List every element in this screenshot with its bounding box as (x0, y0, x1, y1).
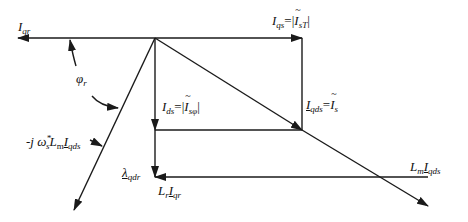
i-qds-vector (155, 38, 302, 130)
neg-j-omega-vector (74, 38, 155, 210)
phi-r-angle-arc-top (70, 40, 76, 66)
neg-j-omega-pointer (90, 140, 102, 146)
i-qs-label: Iqs=|IsT| (272, 14, 310, 30)
phi-r-angle-arc (92, 96, 118, 108)
i-qr-label: Iqr (18, 20, 30, 36)
neg-j-omega-label: -j ω*sLmIqds (26, 134, 81, 151)
lm-iqds-label: LmIqds (410, 160, 441, 176)
phasor-diagram-canvas (0, 0, 468, 222)
i-qds-label: Iqds=Is (306, 98, 338, 114)
phi-r-label: φr (76, 72, 87, 88)
i-ds-label: Ids=|Isφ| (162, 100, 200, 116)
lr-iqr-label: LrIqr (158, 184, 181, 200)
lambda-qdr-label: λqdr (122, 166, 140, 182)
